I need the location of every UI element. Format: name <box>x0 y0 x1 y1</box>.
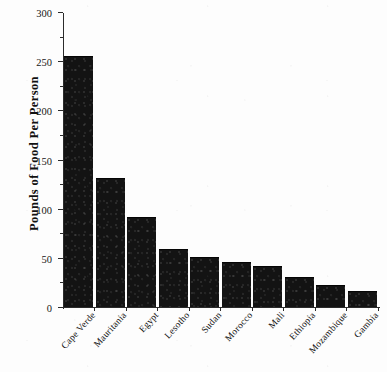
bar <box>190 257 219 307</box>
y-tick-minor <box>60 37 63 38</box>
y-tick-major <box>58 209 63 210</box>
y-tick-major <box>58 307 63 308</box>
bar <box>64 56 93 307</box>
y-tick-minor <box>60 135 63 136</box>
y-tick-major <box>58 61 63 62</box>
y-tick-major <box>58 160 63 161</box>
y-tick-major <box>58 110 63 111</box>
y-tick-label: 150 <box>36 155 52 166</box>
x-tick-label: Ethiopia <box>288 310 318 342</box>
x-tick-label: Morocco <box>223 310 254 343</box>
bar <box>159 249 188 307</box>
y-tick-label: 300 <box>36 8 52 19</box>
y-tick-minor <box>60 184 63 185</box>
x-tick-label: Mali <box>266 310 286 331</box>
x-tick-label: Gambia <box>352 310 380 340</box>
y-tick-label: 50 <box>42 253 53 264</box>
bar-chart: Pounds of Food Per Person 05010015020025… <box>0 0 387 372</box>
bar <box>222 262 251 307</box>
bar <box>348 291 377 307</box>
y-tick-minor <box>60 86 63 87</box>
y-tick-label: 250 <box>36 57 52 68</box>
bar <box>253 266 282 307</box>
bar-series <box>64 12 379 307</box>
bar <box>285 277 314 308</box>
plot-area: 050100150200250300 <box>63 13 379 308</box>
bar <box>316 285 345 307</box>
y-tick-minor <box>60 282 63 283</box>
bar <box>96 178 125 307</box>
x-tick-label: Cape Verde <box>59 310 97 351</box>
y-tick-label: 200 <box>36 106 52 117</box>
y-tick-label: 0 <box>47 303 52 314</box>
y-tick-major <box>58 258 63 259</box>
y-tick-label: 100 <box>36 204 52 215</box>
y-tick-minor <box>60 233 63 234</box>
y-tick-major <box>58 12 63 13</box>
x-tick-label: Lesotho <box>163 310 192 340</box>
x-tick-label: Egypt <box>137 310 160 334</box>
x-axis-line <box>63 307 380 308</box>
bar <box>127 217 156 307</box>
x-axis-labels: Cape VerdeMauritaniaEgyptLesothoSudanMor… <box>63 310 383 372</box>
x-tick-label: Sudan <box>199 310 223 335</box>
